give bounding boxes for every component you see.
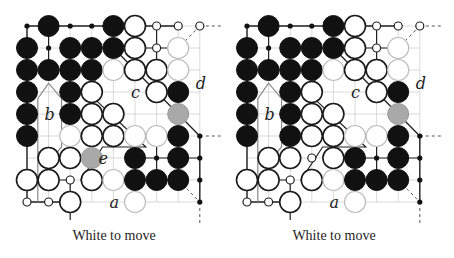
white-stone: [146, 82, 167, 103]
black-point-marker: [417, 133, 422, 138]
white-stone: [125, 38, 146, 59]
black-stone: [345, 170, 366, 191]
black-stone: [237, 60, 258, 81]
white-stone: [81, 104, 102, 125]
black-stone: [323, 16, 344, 37]
black-stone: [280, 126, 301, 147]
white-stone: [258, 170, 279, 191]
black-point-marker: [197, 155, 202, 160]
white-stone: [258, 148, 279, 169]
point-label-a: a: [329, 193, 339, 212]
black-stone: [280, 60, 301, 81]
faint-white-stone: [388, 38, 409, 59]
faint-white-stone: [345, 126, 366, 147]
faint-white-stone: [103, 170, 124, 191]
faint-white-stone: [168, 60, 189, 81]
faint-white-stone: [323, 170, 344, 191]
black-stone: [237, 82, 258, 103]
point-label-d: d: [196, 74, 206, 93]
white-stone: [146, 60, 167, 81]
white-point-marker: [373, 44, 381, 52]
white-stone: [60, 148, 81, 169]
white-stone: [366, 60, 387, 81]
faint-white-stone: [103, 60, 124, 81]
grey-stone: [168, 104, 189, 125]
black-stone: [388, 170, 409, 191]
black-point-marker: [197, 199, 202, 204]
faint-white-stone: [60, 126, 81, 147]
black-point-marker: [266, 45, 271, 50]
black-stone: [280, 38, 301, 59]
black-stone: [60, 60, 81, 81]
white-point-marker: [153, 44, 161, 52]
black-point-marker: [417, 199, 422, 204]
white-stone: [323, 148, 344, 169]
white-stone: [81, 170, 102, 191]
white-stone: [323, 104, 344, 125]
white-stone: [81, 126, 102, 147]
white-stone: [125, 60, 146, 81]
black-stone: [168, 82, 189, 103]
black-stone: [125, 170, 146, 191]
white-point-marker: [243, 198, 251, 206]
white-point-marker: [23, 198, 31, 206]
black-stone: [38, 60, 59, 81]
black-stone: [237, 38, 258, 59]
black-stone: [103, 16, 124, 37]
black-stone: [323, 38, 344, 59]
go-diagram-left: bcdea White to move: [0, 0, 227, 258]
black-stone: [301, 60, 322, 81]
white-stone: [301, 126, 322, 147]
point-label-d: d: [416, 74, 426, 93]
black-stone: [60, 104, 81, 125]
black-point-marker: [24, 23, 29, 28]
black-point-marker: [46, 45, 51, 50]
faint-white-stone: [366, 126, 387, 147]
white-point-marker: [174, 22, 182, 30]
black-stone: [146, 170, 167, 191]
black-stone: [168, 126, 189, 147]
point-label-e: e: [99, 149, 108, 168]
white-stone: [301, 104, 322, 125]
black-stone: [237, 126, 258, 147]
black-stone: [17, 104, 38, 125]
black-stone: [38, 16, 59, 37]
black-stone: [81, 38, 102, 59]
black-stone: [125, 148, 146, 169]
white-stone: [60, 192, 81, 213]
black-stone: [168, 148, 189, 169]
white-stone: [237, 170, 258, 191]
caption-left: White to move: [24, 228, 204, 244]
faint-white-stone: [146, 126, 167, 147]
white-point-marker: [45, 198, 53, 206]
go-diagram-right: bcda White to move: [220, 0, 447, 258]
white-stone: [38, 148, 59, 169]
black-point-marker: [68, 23, 73, 28]
black-stone: [366, 170, 387, 191]
black-stone: [168, 170, 189, 191]
white-point-marker: [196, 22, 204, 30]
faint-white-stone: [125, 192, 146, 213]
white-stone: [345, 60, 366, 81]
white-stone: [345, 16, 366, 37]
black-stone: [388, 148, 409, 169]
black-stone: [17, 82, 38, 103]
point-label-c: c: [131, 83, 140, 102]
white-point-marker: [153, 22, 161, 30]
white-stone: [81, 82, 102, 103]
point-label-a: a: [109, 193, 119, 212]
white-stone: [125, 16, 146, 37]
board-svg-right: bcda: [220, 0, 447, 225]
white-stone: [280, 192, 301, 213]
white-stone: [17, 170, 38, 191]
black-point-marker: [197, 133, 202, 138]
black-stone: [17, 126, 38, 147]
black-stone: [301, 38, 322, 59]
black-point-marker: [154, 155, 159, 160]
black-stone: [17, 60, 38, 81]
black-stone: [388, 82, 409, 103]
white-stone: [103, 104, 124, 125]
white-stone: [301, 82, 322, 103]
white-point-marker: [66, 176, 74, 184]
black-stone: [280, 82, 301, 103]
